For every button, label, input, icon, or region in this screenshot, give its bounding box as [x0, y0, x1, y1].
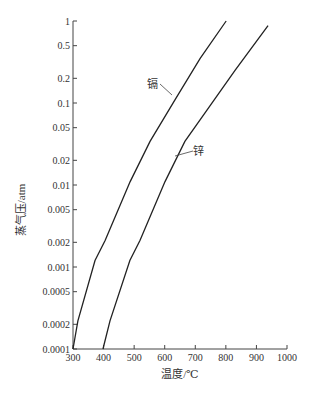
zn-label: 锌: [193, 144, 204, 157]
cd-label: 镉: [147, 77, 158, 90]
x-tick-label: 900: [249, 352, 264, 363]
x-tick-label: 400: [96, 352, 111, 363]
y-tick-label: 0.0005: [43, 286, 71, 297]
cd-leader-line: [160, 84, 172, 95]
series-line-cadmium: [73, 21, 226, 349]
y-tick-label: 0.1: [58, 98, 71, 109]
y-tick-label: 0.001: [48, 262, 71, 273]
y-tick-label: 0.005: [48, 204, 71, 215]
y-tick-label: 0.05: [53, 122, 71, 133]
y-tick-label: 0.0002: [43, 319, 71, 330]
y-tick-label: 1: [65, 16, 70, 27]
y-axis-title: 蒸气压/atm: [14, 183, 27, 236]
x-tick-label: 600: [157, 352, 172, 363]
y-tick-label: 0.02: [53, 155, 71, 166]
x-tick-label: 500: [127, 352, 142, 363]
x-tick-label: 1000: [277, 352, 297, 363]
vapor-pressure-chart: 300400500600700800900100010.50.20.10.050…: [0, 0, 315, 397]
y-tick-label: 0.002: [48, 237, 71, 248]
y-tick-label: 0.01: [53, 180, 71, 191]
y-tick-label: 0.0001: [43, 344, 71, 355]
y-tick-label: 0.2: [58, 73, 71, 84]
x-axis-title: 温度/℃: [161, 367, 198, 380]
x-tick-label: 800: [218, 352, 233, 363]
zn-leader-line: [175, 151, 193, 156]
x-tick-label: 700: [188, 352, 203, 363]
y-tick-label: 0.5: [58, 40, 71, 51]
